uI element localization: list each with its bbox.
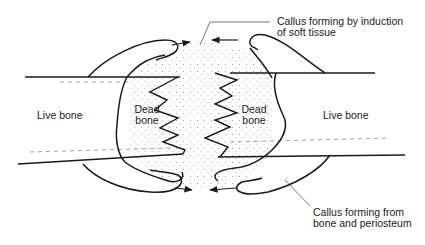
label-callus-periosteum-line2: bone and periosteum: [313, 218, 412, 229]
label-callus-soft-tissue: Callus forming by induction of soft tiss…: [277, 16, 403, 38]
label-dead-bone-left: Dead bone: [130, 104, 164, 126]
label-live-bone-right: Live bone: [323, 110, 369, 121]
label-dead-bone-left-line2: bone: [130, 115, 164, 126]
label-live-bone-left: Live bone: [37, 110, 83, 121]
label-callus-soft-tissue-line2: of soft tissue: [277, 27, 403, 38]
label-dead-bone-right-line2: bone: [237, 115, 271, 126]
label-dead-bone-right: Dead bone: [237, 104, 271, 126]
label-callus-periosteum: Callus forming from bone and periosteum: [313, 207, 412, 229]
